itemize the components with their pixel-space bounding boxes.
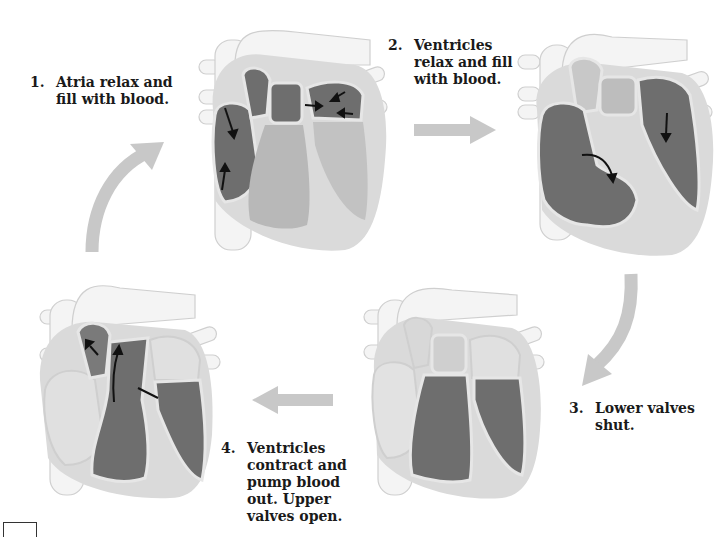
flow-arrow-right-icon bbox=[412, 115, 497, 145]
aorta-chamber bbox=[270, 83, 302, 123]
step-1-label: 1.Atria relax and fill with blood. bbox=[30, 74, 173, 108]
aorta-chamber bbox=[600, 77, 636, 115]
step-3-label: 3.Lower valves shut. bbox=[569, 400, 695, 434]
heart-step-3 bbox=[362, 280, 562, 500]
step-number: 1. bbox=[30, 74, 56, 91]
heart-step-2 bbox=[512, 25, 722, 265]
heart-step-4 bbox=[10, 280, 225, 500]
step-number: 3. bbox=[569, 400, 595, 417]
flow-arrow-curved-up-icon bbox=[70, 140, 180, 260]
heart-step-1 bbox=[195, 10, 395, 255]
step-4-label: 4.Ventricles contract and pump blood out… bbox=[221, 440, 347, 525]
flow-arrow-curved-down-icon bbox=[578, 270, 648, 390]
right-ventricle bbox=[410, 375, 471, 482]
flow-arrow-left-icon bbox=[250, 385, 335, 415]
step-2-label: 2.Ventricles relax and fill with blood. bbox=[388, 37, 513, 88]
corner-marker bbox=[3, 522, 37, 537]
left-atrium bbox=[470, 336, 520, 380]
aorta-chamber bbox=[432, 335, 466, 373]
